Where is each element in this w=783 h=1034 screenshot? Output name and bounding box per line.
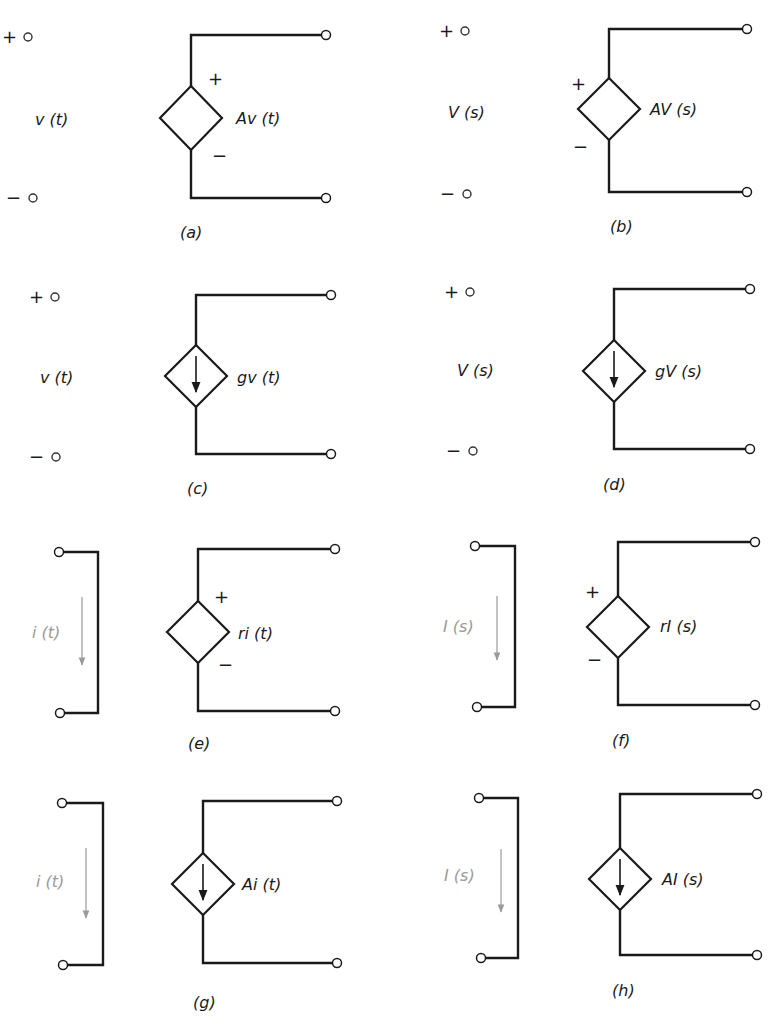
short-circuit-input-wire (66, 803, 103, 965)
source-value-label: Av (t) (235, 109, 280, 128)
panels-group: +−v (t)+−Av (t)(a)+−V (s)+−AV (s)(b)+−v … (2, 20, 762, 1012)
panel-caption: (d) (603, 475, 626, 494)
source-minus-sign: − (218, 654, 233, 675)
panel-caption: (f) (612, 731, 630, 750)
input-plus-terminal-icon (466, 288, 474, 296)
output-bottom-wire (191, 150, 322, 198)
control-voltage-label: v (t) (40, 368, 73, 387)
control-voltage-label: V (s) (457, 361, 494, 380)
output-top-wire (203, 801, 333, 853)
control-voltage-label: V (s) (448, 103, 485, 122)
input-minus-sign: − (440, 183, 455, 204)
source-value-label: gv (t) (237, 368, 280, 387)
panel-a: +−v (t)+−Av (t)(a) (2, 26, 331, 242)
input-plus-sign: + (439, 20, 454, 41)
input-minus-terminal-icon (463, 190, 471, 198)
control-current-label: I (s) (443, 617, 474, 636)
source-plus-sign: + (214, 586, 229, 607)
output-top-wire (614, 289, 746, 340)
control-voltage-label: v (t) (35, 110, 68, 129)
output-top-terminal-icon (327, 291, 336, 300)
input-top-terminal-icon (471, 542, 480, 551)
output-bottom-wire (196, 407, 327, 454)
input-top-terminal-icon (58, 799, 67, 808)
output-bottom-wire (609, 140, 743, 192)
source-minus-sign: − (212, 145, 227, 166)
output-top-terminal-icon (753, 790, 762, 799)
output-bottom-terminal-icon (746, 445, 755, 454)
panel-caption: (a) (180, 223, 202, 242)
panel-caption: (g) (193, 993, 216, 1012)
output-bottom-terminal-icon (331, 707, 340, 716)
output-bottom-wire (620, 910, 753, 955)
panel-caption: (e) (188, 734, 210, 753)
output-top-wire (618, 542, 751, 596)
source-value-label: gV (s) (655, 362, 702, 381)
output-bottom-terminal-icon (753, 951, 762, 960)
panel-d: +−V (s)gV (s)(d) (444, 281, 755, 494)
source-plus-sign: + (585, 581, 600, 602)
panel-caption: (c) (187, 479, 208, 498)
input-plus-sign: + (29, 286, 44, 307)
dependent-sources-figure: +−v (t)+−Av (t)(a)+−V (s)+−AV (s)(b)+−v … (0, 0, 783, 1034)
control-current-label: i (t) (32, 623, 60, 642)
input-minus-terminal-icon (52, 453, 60, 461)
output-bottom-wire (618, 658, 751, 705)
dependent-voltage-source-icon (160, 86, 222, 150)
source-value-label: ri (t) (238, 624, 273, 643)
input-plus-sign: + (2, 26, 17, 47)
panel-e: i (t)+−ri (t)(e) (32, 545, 340, 754)
control-current-label: I (s) (444, 866, 475, 885)
panel-f: I (s)+−rI (s)(f) (443, 538, 760, 751)
source-plus-sign: + (208, 68, 223, 89)
output-bottom-terminal-icon (322, 194, 331, 203)
source-value-label: rI (s) (660, 617, 697, 636)
input-plus-sign: + (444, 281, 459, 302)
input-minus-terminal-icon (469, 447, 477, 455)
short-circuit-input-wire (63, 552, 98, 713)
source-plus-sign: + (571, 73, 586, 94)
input-bottom-terminal-icon (473, 703, 482, 712)
input-plus-terminal-icon (461, 27, 469, 35)
source-value-label: Ai (t) (241, 875, 281, 894)
input-minus-terminal-icon (29, 194, 37, 202)
input-top-terminal-icon (475, 794, 484, 803)
source-value-label: AV (s) (649, 100, 697, 119)
control-current-label: i (t) (36, 872, 64, 891)
input-bottom-terminal-icon (59, 961, 68, 970)
input-minus-sign: − (446, 440, 461, 461)
output-top-wire (196, 295, 327, 345)
output-top-terminal-icon (322, 31, 331, 40)
input-top-terminal-icon (55, 548, 64, 557)
panel-h: I (s)AI (s)(h) (444, 790, 762, 1001)
output-top-terminal-icon (751, 538, 760, 547)
output-top-terminal-icon (331, 545, 340, 554)
panel-g: i (t)Ai (t)(g) (36, 797, 342, 1013)
output-top-terminal-icon (743, 25, 752, 34)
panel-caption: (h) (612, 981, 635, 1000)
output-bottom-wire (614, 402, 746, 449)
output-bottom-terminal-icon (743, 188, 752, 197)
input-plus-terminal-icon (24, 33, 32, 41)
panel-c: +−v (t)gv (t)(c) (29, 286, 336, 498)
source-value-label: AI (s) (661, 870, 704, 889)
input-bottom-terminal-icon (477, 954, 486, 963)
panel-b: +−V (s)+−AV (s)(b) (439, 20, 752, 236)
panel-caption: (b) (610, 217, 633, 236)
output-bottom-terminal-icon (333, 959, 342, 968)
output-top-wire (620, 794, 753, 848)
source-minus-sign: − (587, 649, 602, 670)
output-top-wire (609, 29, 743, 78)
input-minus-sign: − (6, 187, 21, 208)
input-minus-sign: − (29, 446, 44, 467)
output-bottom-terminal-icon (751, 701, 760, 710)
source-minus-sign: − (573, 136, 588, 157)
dependent-voltage-source-icon (578, 78, 640, 140)
output-top-terminal-icon (746, 285, 755, 294)
output-top-terminal-icon (333, 797, 342, 806)
output-bottom-terminal-icon (327, 450, 336, 459)
figure-canvas: +−v (t)+−Av (t)(a)+−V (s)+−AV (s)(b)+−v … (0, 0, 783, 1034)
output-bottom-wire (203, 915, 333, 963)
input-bottom-terminal-icon (56, 709, 65, 718)
input-plus-terminal-icon (51, 293, 59, 301)
